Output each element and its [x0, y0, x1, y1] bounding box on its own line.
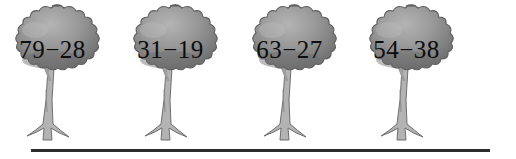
subtraction-expression: 79−28 — [5, 36, 100, 64]
tree-illustration-icon — [5, 0, 100, 150]
subtraction-expression: 63−27 — [242, 36, 337, 64]
tree-figure: 54−38 — [359, 0, 454, 150]
tree-illustration-icon — [123, 0, 218, 150]
subtraction-expression: 31−19 — [123, 36, 218, 64]
subtraction-expression: 54−38 — [359, 36, 454, 64]
ground-line — [31, 149, 490, 152]
tree-illustration-icon — [359, 0, 454, 150]
worksheet-canvas: 79−28 31−19 — [0, 0, 516, 159]
tree-figure: 31−19 — [123, 0, 218, 150]
tree-figure: 79−28 — [5, 0, 100, 150]
tree-illustration-icon — [242, 0, 337, 150]
tree-figure: 63−27 — [242, 0, 337, 150]
